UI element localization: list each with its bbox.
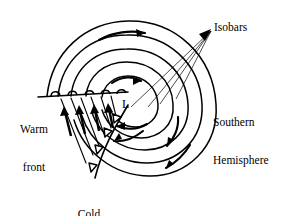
cold-front-label-line1: Cold <box>66 208 112 216</box>
southern-hemisphere-label-line2: Hemisphere <box>213 154 269 167</box>
weather-diagram: Isobars Southern Hemisphere Warm front C… <box>0 0 291 216</box>
isobars-label: Isobars <box>214 21 247 34</box>
warm-sector-arrowhead-1 <box>60 106 69 116</box>
warm-front-group <box>38 90 128 97</box>
cold-front-triangle-3 <box>95 145 103 154</box>
warm-sector-arrowhead-3 <box>90 104 99 114</box>
warm-front-label-line2: front <box>8 161 60 174</box>
isobars-leader-line-1 <box>131 31 211 107</box>
isobar-ring-5-outer <box>47 21 216 176</box>
southern-hemisphere-label-line1: Southern <box>213 116 269 129</box>
hatch-line-2 <box>71 98 93 155</box>
warm-front-label-line1: Warm <box>8 123 60 136</box>
cold-front-label: Cold front <box>66 182 112 216</box>
warm-sector-arrowhead-2 <box>75 105 84 115</box>
isobar-group <box>47 21 216 176</box>
isobar-ring-4 <box>58 35 202 163</box>
arrowhead-mid-left <box>114 133 122 141</box>
isobars-callout-group <box>131 31 211 107</box>
cold-front-triangle-4 <box>89 163 97 172</box>
southern-hemisphere-label: Southern Hemisphere <box>213 90 269 193</box>
low-pressure-center-label: L <box>122 98 129 111</box>
warm-front-label: Warm front <box>8 97 60 200</box>
warm-sector-arrowhead-4 <box>104 103 113 113</box>
isobar-ring-3 <box>71 49 188 150</box>
